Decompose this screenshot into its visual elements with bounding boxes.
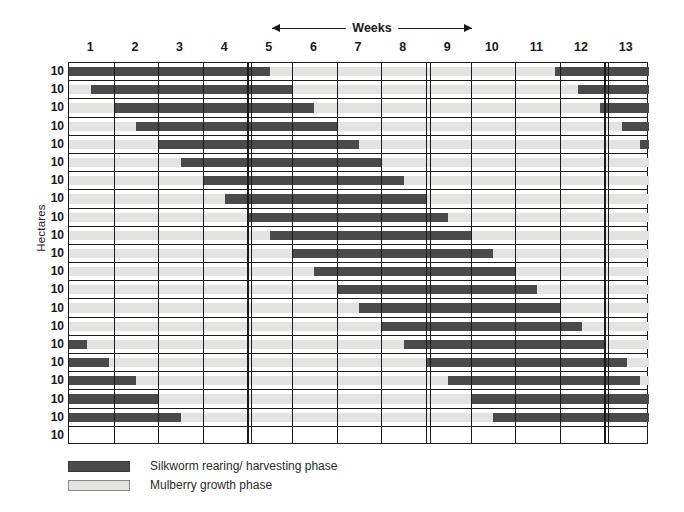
bar-segment-silkworm	[69, 340, 87, 349]
gridline-week-9	[471, 63, 472, 443]
bar-segment-silkworm	[337, 285, 538, 294]
bar-segment-mulberry	[359, 140, 640, 149]
y-row-label: 10	[51, 138, 64, 150]
y-row-label: 10	[51, 156, 64, 168]
plot-area	[68, 62, 648, 444]
y-row-label: 10	[51, 338, 64, 350]
right-arrow-icon	[398, 23, 472, 33]
bar-segment-silkworm	[136, 122, 337, 131]
legend-item: Silkworm rearing/ harvesting phase	[68, 458, 488, 474]
bar-segment-mulberry	[109, 358, 426, 367]
weeks-axis-header: Weeks	[272, 18, 472, 38]
legend-item: Mulberry growth phase	[68, 477, 488, 493]
bar-segment-silkworm	[69, 358, 109, 367]
bar-segment-silkworm	[203, 176, 404, 185]
gridline-week-1	[114, 63, 115, 443]
bar-segment-silkworm	[622, 122, 649, 131]
bar-segment-mulberry	[582, 322, 649, 331]
x-tick-label-week-7: 7	[355, 40, 362, 54]
x-tick-label-week-8: 8	[399, 40, 406, 54]
left-arrow-icon	[272, 23, 346, 33]
legend-label: Mulberry growth phase	[150, 478, 272, 492]
x-tick-label-week-2: 2	[131, 40, 138, 54]
bar-segment-mulberry	[515, 267, 649, 276]
y-row-label: 10	[51, 229, 64, 241]
gridline-week-6	[337, 63, 338, 443]
bar-segment-mulberry	[69, 267, 314, 276]
x-axis-tick-labels: 12345678910111213	[68, 40, 648, 58]
bar-segment-silkworm	[640, 140, 649, 149]
bar-segment-mulberry	[69, 176, 203, 185]
bar-segment-silkworm	[270, 231, 471, 240]
y-row-label: 10	[51, 174, 64, 186]
bar-segment-silkworm	[158, 140, 359, 149]
bar-segment-mulberry	[69, 85, 91, 94]
bar-segment-mulberry	[448, 213, 649, 222]
bar-segment-silkworm	[247, 213, 448, 222]
bar-segment-silkworm	[181, 158, 382, 167]
y-row-label: 10	[51, 192, 64, 204]
chart-figure: Weeks 12345678910111213 Hectares 1010101…	[0, 0, 684, 512]
y-row-label: 10	[51, 247, 64, 259]
bar-segment-mulberry	[69, 231, 270, 240]
y-row-label: 10	[51, 265, 64, 277]
bar-segment-silkworm	[225, 194, 426, 203]
bar-segment-mulberry	[69, 249, 292, 258]
bar-segment-mulberry	[270, 67, 556, 76]
y-axis-row-labels: 1010101010101010101010101010101010101010…	[34, 62, 64, 444]
gridline-week-11	[560, 63, 561, 443]
bar-segment-mulberry	[627, 358, 649, 367]
bar-segment-silkworm	[359, 303, 560, 312]
y-row-label: 10	[51, 393, 64, 405]
y-row-label: 10	[51, 83, 64, 95]
bar-segment-silkworm	[493, 413, 649, 422]
bar-segment-silkworm	[426, 358, 627, 367]
legend-swatch-mulberry	[68, 480, 130, 491]
bar-segment-mulberry	[640, 376, 649, 385]
bar-segment-mulberry	[404, 176, 649, 185]
bar-segment-mulberry	[537, 285, 649, 294]
bar-segment-mulberry	[158, 394, 470, 403]
y-row-label: 10	[51, 429, 64, 441]
bar-segment-mulberry	[69, 194, 225, 203]
y-row-label: 10	[51, 374, 64, 386]
y-row-label: 10	[51, 101, 64, 113]
bar-segment-mulberry	[292, 85, 578, 94]
major-gridline-week-12	[604, 63, 605, 443]
legend-swatch-silkworm	[68, 461, 130, 472]
x-tick-label-week-3: 3	[176, 40, 183, 54]
bar-segment-silkworm	[381, 322, 582, 331]
y-row-label: 10	[51, 356, 64, 368]
bar-segment-mulberry	[69, 122, 136, 131]
chart-legend: Silkworm rearing/ harvesting phaseMulber…	[68, 458, 488, 496]
x-tick-label-week-11: 11	[530, 40, 543, 54]
legend-label: Silkworm rearing/ harvesting phase	[150, 459, 337, 473]
y-row-label: 10	[51, 211, 64, 223]
bar-segment-silkworm	[69, 67, 270, 76]
x-tick-label-week-9: 9	[444, 40, 451, 54]
bar-segment-silkworm	[69, 413, 181, 422]
x-tick-label-week-5: 5	[265, 40, 272, 54]
bar-segment-silkworm	[91, 85, 292, 94]
y-row-label: 10	[51, 283, 64, 295]
bar-segment-mulberry	[69, 303, 359, 312]
bar-segment-mulberry	[314, 103, 600, 112]
bar-segment-mulberry	[604, 340, 649, 349]
y-row-label: 10	[51, 320, 64, 332]
major-gridline-week-4	[247, 63, 248, 443]
bar-segment-silkworm	[404, 340, 605, 349]
major-gridline-week-8	[426, 63, 427, 443]
bar-segment-silkworm	[578, 85, 649, 94]
y-row-label: 10	[51, 302, 64, 314]
gridline-week-3	[203, 63, 204, 443]
bar-segment-silkworm	[292, 249, 493, 258]
x-tick-label-week-4: 4	[221, 40, 228, 54]
gridline-week-7	[381, 63, 382, 443]
bar-segment-mulberry	[337, 122, 623, 131]
x-tick-label-week-1: 1	[87, 40, 94, 54]
bar-segment-mulberry	[69, 322, 381, 331]
bar-segment-mulberry	[87, 340, 404, 349]
x-tick-label-week-6: 6	[310, 40, 317, 54]
bar-segment-mulberry	[426, 194, 649, 203]
x-tick-label-week-13: 13	[619, 40, 633, 54]
